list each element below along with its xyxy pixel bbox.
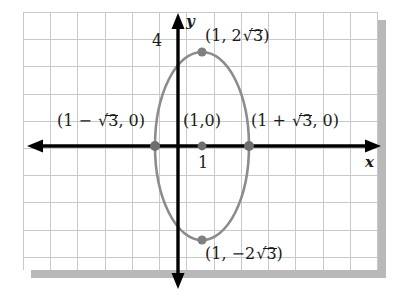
sqrt-symbol-top: √3: [242, 28, 263, 44]
label-left-intercept-pre: (1 −: [57, 111, 97, 130]
label-top-vertex-pre: (1, 2: [205, 26, 242, 45]
x-axis-label: x: [365, 155, 374, 170]
x-axis-arrow-left: [27, 140, 43, 153]
sqrt-overbar-top: [249, 30, 263, 31]
point-center: [198, 142, 207, 151]
figure-canvas: y x 4 1 (1, 2√3) (1, −2√3) (1 − √3, 0) (…: [0, 0, 395, 306]
label-bottom-vertex-post: ): [277, 244, 283, 263]
label-right-intercept-post: , 0): [312, 111, 339, 130]
x-axis-arrow-right: [365, 140, 381, 153]
y-axis-arrow-up: [172, 13, 185, 29]
sqrt-overbar-left: [105, 115, 119, 116]
label-right-intercept: (1 + √3, 0): [251, 113, 339, 129]
point-left-intercept: [150, 141, 160, 151]
sqrt-overbar-right: [299, 115, 313, 116]
sqrt-symbol-bottom: √3: [255, 246, 276, 262]
sqrt-symbol-left: √3: [97, 113, 118, 129]
label-top-vertex: (1, 2√3): [205, 28, 269, 44]
point-top-vertex: [197, 47, 206, 56]
sqrt-overbar-bottom: [263, 248, 277, 249]
label-right-intercept-pre: (1 +: [251, 111, 291, 130]
y-tick-label-4: 4: [152, 33, 162, 49]
sqrt-symbol-right: √3: [291, 113, 312, 129]
label-bottom-vertex-pre: (1, −2: [205, 244, 255, 263]
y-axis-label: y: [186, 14, 195, 29]
label-left-intercept-post: , 0): [118, 111, 145, 130]
point-right-intercept: [244, 141, 254, 151]
label-center-point: (1,0): [183, 113, 221, 129]
y-axis-arrow-down: [172, 273, 185, 289]
x-tick-label-1: 1: [198, 155, 208, 171]
label-left-intercept: (1 − √3, 0): [57, 113, 145, 129]
label-top-vertex-post: ): [263, 26, 269, 45]
label-bottom-vertex: (1, −2√3): [205, 246, 283, 262]
